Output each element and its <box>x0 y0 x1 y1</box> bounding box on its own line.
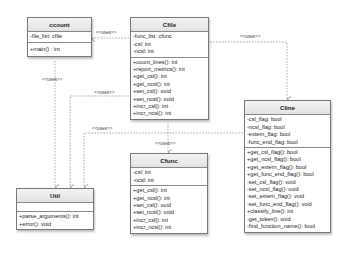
label-uses-cfile-util: <<uses>> <box>94 90 114 95</box>
attribute: -ncsl_flag: bool <box>247 124 328 131</box>
method: +classify_line(): int <box>247 208 328 215</box>
attribute: -ncsl: int <box>133 48 206 55</box>
attribute: -extern_flag: bool <box>247 131 328 138</box>
attribute: -csl_flag: bool <box>247 116 328 123</box>
method: +incr_ncsl(): int <box>133 110 206 117</box>
attribute: -func_list: cfunc <box>133 33 206 40</box>
class-cfunc: Cfunc -csl: int -ncsl: int +get_csl(): i… <box>130 153 208 234</box>
method: +get_csl(): int <box>133 187 205 194</box>
method: +set_csl(): void <box>133 88 206 95</box>
method: +incr_csl(): int <box>133 103 206 110</box>
attribute: -csl: int <box>133 169 205 176</box>
method: +error(): void <box>19 221 91 228</box>
attributes <box>17 203 93 212</box>
method: -find_function_name(): bool <box>247 223 328 230</box>
attribute: -file_list: cfile <box>30 33 89 40</box>
method: -set_ncsl_flag(): void <box>247 186 328 193</box>
class-ccount: ccount -file_list: cfile +main() : int <box>27 17 92 57</box>
class-name: Cfunc <box>131 154 207 168</box>
method: +get_ncsl(): int <box>133 81 206 88</box>
method: -get_token(): void <box>247 216 328 223</box>
attribute: -csl: int <box>133 41 206 48</box>
method: +incr_ncsl(): int <box>133 224 205 231</box>
relation-cfile-util <box>70 96 129 187</box>
method: +report_metrics(): int <box>133 66 206 73</box>
method: +parse_arguments(): int <box>19 213 91 220</box>
class-name: ccount <box>28 18 91 32</box>
attribute: -func_end_flag: bool <box>247 139 328 146</box>
method: +get_csl(): int <box>133 73 206 80</box>
method: +set_ncsl(): void <box>133 96 206 103</box>
method: +set_ncsl(): void <box>133 209 205 216</box>
relation-cfile-cline <box>207 42 287 99</box>
method: -set_func_end_flag(): void <box>247 201 328 208</box>
method: +get_func_end_flag(): bool <box>247 171 328 178</box>
class-cfile: Cfile -func_list: cfunc -csl: int -ncsl:… <box>130 17 209 120</box>
method: +get_ncsl_flag(): bool <box>247 156 328 163</box>
methods: +get_csl(): int +get_ncsl(): int +set_cs… <box>131 186 207 232</box>
class-util: Util +parse_arguments(): int +error(): v… <box>16 188 94 230</box>
methods: +main() : int <box>28 43 91 56</box>
label-uses-ccount-util: <<uses>> <box>42 77 62 82</box>
label-uses-cfile-cline: <<uses>> <box>240 34 260 39</box>
methods: +parse_arguments(): int +error(): void <box>17 212 93 229</box>
method: -set_extern_flag(): void <box>247 193 328 200</box>
class-name: Util <box>17 189 93 203</box>
methods: +count_lines(): int +report_metrics(): i… <box>131 58 208 119</box>
class-name: Cfile <box>131 18 208 32</box>
class-cline: Cline -csl_flag: bool -ncsl_flag: bool -… <box>244 100 331 233</box>
attributes: -csl_flag: bool -ncsl_flag: bool -extern… <box>245 115 330 148</box>
method: +set_csl(): void <box>133 202 205 209</box>
method: +get_ncsl(): int <box>133 195 205 202</box>
method: +main() : int <box>30 46 89 53</box>
method: +count_lines(): int <box>133 59 206 66</box>
method: +incr_csl(): int <box>133 217 205 224</box>
label-uses-cfile-ccount: <<uses>> <box>96 30 116 35</box>
class-name: Cline <box>245 101 330 115</box>
attribute: -ncsl: int <box>133 177 205 184</box>
attributes: -file_list: cfile <box>28 32 91 42</box>
attributes: -csl: int -ncsl: int <box>131 168 207 186</box>
method: -set_csl_flag(): void <box>247 179 328 186</box>
label-uses-cfile-cfunc: <<uses>> <box>155 141 175 146</box>
label-uses-cline-util: <<uses>> <box>92 126 112 131</box>
attributes: -func_list: cfunc -csl: int -ncsl: int <box>131 32 208 57</box>
method: +get_extern_flag(): bool <box>247 164 328 171</box>
method: +get_csl_flag(): bool <box>247 149 328 156</box>
methods: +get_csl_flag(): bool +get_ncsl_flag(): … <box>245 148 330 231</box>
